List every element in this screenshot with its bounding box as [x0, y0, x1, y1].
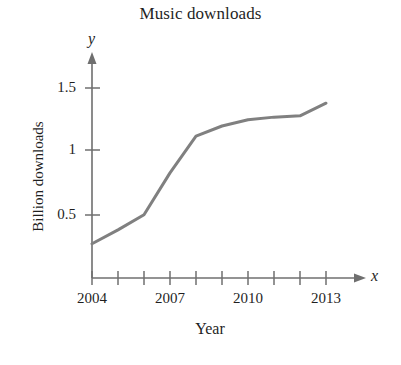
x-tick-label-2004: 2004 [62, 290, 122, 307]
y-axis-arrow-icon [88, 52, 97, 64]
y-axis-title: Billion downloads [30, 97, 47, 257]
x-axis-title: Year [150, 320, 270, 338]
x-axis-arrow-icon [354, 274, 366, 283]
x-axis [92, 274, 366, 283]
y-axis-variable-label: y [88, 30, 95, 48]
chart-figure: Music downloads [0, 0, 401, 365]
x-tick-label-2013: 2013 [296, 290, 356, 307]
plot-area [0, 0, 401, 365]
x-tick-label-2007: 2007 [140, 290, 200, 307]
x-tick-label-2010: 2010 [218, 290, 278, 307]
y-tick-label-1.5: 1.5 [36, 79, 76, 96]
x-axis-variable-label: x [371, 267, 378, 285]
data-series-line [92, 103, 326, 244]
